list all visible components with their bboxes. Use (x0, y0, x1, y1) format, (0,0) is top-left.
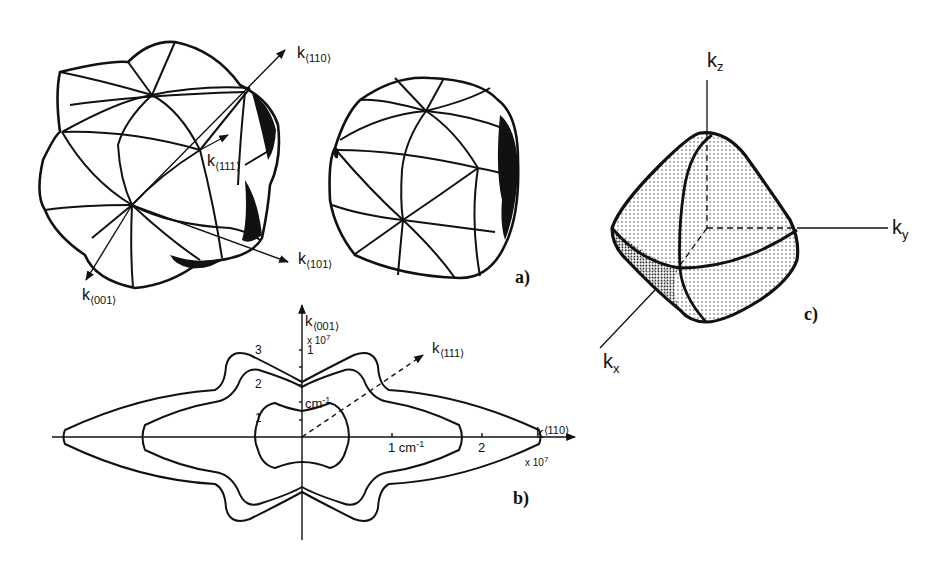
horizontal-scale: x 107 (525, 455, 549, 468)
panel-c-label: c) (804, 304, 818, 325)
k110-axis-label: k⟨110⟩ (536, 424, 569, 441)
k111-arrow (200, 135, 228, 150)
kz-label: kz (707, 49, 724, 74)
curve-3-label: 3 (255, 343, 262, 357)
curve-1-label: 1 (255, 411, 262, 425)
vertical-tick-1: 1 (307, 343, 314, 357)
k101-arrow (132, 205, 288, 262)
ky-label: ky (892, 216, 909, 242)
curve-2-label: 2 (255, 377, 262, 391)
kx-label: kx (603, 350, 620, 376)
k001-label: k⟨001⟩ (82, 286, 116, 306)
k110-label: k⟨110⟩ (297, 44, 331, 64)
k111-label: k⟨111⟩ (207, 152, 240, 172)
panel-a-left-surface (39, 42, 279, 288)
panel-a-right-surface (330, 78, 519, 278)
k001-axis-label: k⟨001⟩ (305, 312, 339, 332)
panel-b-label: b) (513, 488, 529, 509)
horizontal-tick-2: 2 (478, 440, 485, 455)
vertical-unit: cm-1 (305, 395, 330, 411)
k111-axis-label: k⟨111⟩ (432, 339, 464, 359)
figure-canvas: k⟨110⟩ k⟨111⟩ k⟨101⟩ k⟨001⟩ a) (0, 0, 951, 567)
panel-c-surface (612, 133, 798, 322)
panel-a-label: a) (515, 267, 530, 288)
k001-arrow (86, 205, 132, 280)
k101-label: k⟨101⟩ (298, 250, 332, 270)
horizontal-tick-1: 1 cm-1 (388, 439, 424, 455)
